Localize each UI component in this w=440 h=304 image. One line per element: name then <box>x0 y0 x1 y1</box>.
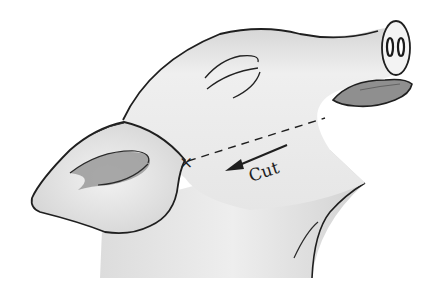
nostril-left <box>387 38 393 56</box>
ear <box>32 122 185 233</box>
pig-head-illustration: × Cut <box>0 0 440 304</box>
nostril-right <box>398 38 404 56</box>
snout <box>382 21 410 75</box>
start-marker: × <box>179 152 193 172</box>
